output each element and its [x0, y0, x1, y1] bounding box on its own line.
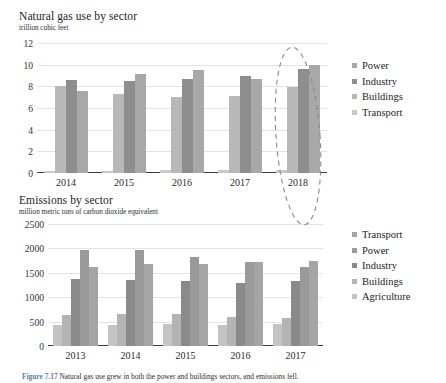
bar-transport — [102, 171, 113, 173]
figure-page: Natural gas use by sector trillion cubic… — [0, 0, 446, 383]
legend-swatch-icon — [352, 279, 357, 284]
bar-transport — [144, 264, 153, 346]
legend-swatch-icon — [352, 248, 357, 253]
x-axis-tick-label: 2017 — [211, 177, 269, 188]
bar-group: 2015 — [158, 224, 213, 346]
legend-item-industry: Industry — [352, 258, 410, 274]
chart-legend: PowerIndustryBuildingsTransport — [352, 58, 403, 120]
bar-group: 2014 — [103, 224, 158, 346]
y-axis-tick-label: 2000 — [25, 244, 44, 253]
figure-caption-text: Natural gas use grew in both the power a… — [59, 372, 298, 381]
legend-label: Buildings — [362, 276, 403, 287]
legend-label: Power — [362, 60, 389, 71]
chart-emissions-by-sector: Emissions by sector million metric tons … — [0, 194, 446, 369]
legend-item-power: Power — [352, 243, 410, 259]
bar-group: 2017 — [268, 224, 323, 346]
legend-label: Power — [362, 245, 389, 256]
bar-power — [309, 65, 320, 173]
bar-groups: 20132014201520162017 — [48, 224, 323, 346]
legend-label: Transport — [362, 107, 402, 118]
bar-groups: 20142015201620172018 — [37, 43, 327, 173]
bar-agriculture — [53, 325, 62, 346]
chart-natural-gas-use: Natural gas use by sector trillion cubic… — [0, 10, 446, 190]
y-axis-tick-label: 0 — [39, 342, 44, 351]
bar-buildings — [172, 314, 181, 346]
y-axis-tick-label: 12 — [23, 39, 33, 48]
bar-group: 2018 — [269, 43, 327, 173]
bar-industry — [126, 280, 135, 346]
x-axis-tick-label: 2015 — [95, 177, 153, 188]
x-axis-tick-label: 2014 — [103, 350, 158, 361]
x-axis-tick-label: 2016 — [153, 177, 211, 188]
legend-swatch-icon — [352, 263, 357, 268]
legend-item-transport: Transport — [352, 105, 403, 121]
bar-group: 2015 — [95, 43, 153, 173]
bar-transport — [199, 264, 208, 346]
legend-item-buildings: Buildings — [352, 274, 410, 290]
y-axis-tick-label: 0 — [28, 169, 33, 178]
bar-power — [300, 267, 309, 346]
bars — [276, 43, 320, 173]
chart-subtitle: million metric tons of carbon dioxide eq… — [19, 208, 158, 217]
bar-buildings — [227, 317, 236, 346]
bars — [218, 43, 262, 173]
bars — [53, 224, 98, 346]
bar-agriculture — [163, 324, 172, 346]
bar-buildings — [282, 318, 291, 346]
y-axis-tick-label: 500 — [30, 317, 44, 326]
chart-subtitle: trillion cubic feet — [19, 24, 69, 33]
chart-legend: TransportPowerIndustryBuildingsAgricultu… — [352, 227, 410, 305]
bar-agriculture — [218, 325, 227, 346]
bars — [273, 224, 318, 346]
legend-item-transport: Transport — [352, 227, 410, 243]
bar-industry — [291, 281, 300, 346]
figure-caption-label: Figure 7.17 — [22, 372, 58, 381]
bar-power — [251, 79, 262, 173]
x-axis-tick-label: 2013 — [48, 350, 103, 361]
bar-power — [245, 262, 254, 346]
bar-buildings — [117, 314, 126, 346]
legend-item-buildings: Buildings — [352, 89, 403, 105]
y-axis-tick-label: 6 — [28, 104, 33, 113]
bar-industry — [182, 79, 193, 173]
legend-label: Industry — [362, 76, 397, 87]
bar-transport — [254, 262, 263, 346]
legend-swatch-icon — [352, 294, 357, 299]
bar-buildings — [229, 96, 240, 173]
bar-group: 2013 — [48, 224, 103, 346]
legend-item-power: Power — [352, 58, 403, 74]
y-axis-tick-label: 1500 — [25, 268, 44, 277]
bar-group: 2016 — [153, 43, 211, 173]
bar-buildings — [113, 94, 124, 173]
y-axis-tick-label: 4 — [28, 125, 33, 134]
bar-buildings — [55, 86, 66, 173]
bar-transport — [309, 261, 318, 346]
plot-area: 0500100015002000250020132014201520162017 — [48, 224, 323, 346]
bar-transport — [218, 170, 229, 173]
bars — [102, 43, 146, 173]
bar-industry — [236, 283, 245, 346]
y-axis-tick-label: 8 — [28, 82, 33, 91]
figure-caption: Figure 7.17 Natural gas use grew in both… — [22, 372, 432, 381]
legend-swatch-icon — [352, 63, 357, 68]
y-axis-tick-label: 2500 — [25, 220, 44, 229]
bar-buildings — [171, 97, 182, 173]
y-axis-tick-label: 10 — [23, 60, 33, 69]
x-axis-tick-label: 2015 — [158, 350, 213, 361]
bar-power — [190, 257, 199, 346]
y-axis-tick-label: 1000 — [25, 293, 44, 302]
legend-item-industry: Industry — [352, 74, 403, 90]
bar-industry — [71, 279, 80, 346]
bar-power — [80, 250, 89, 346]
y-axis-tick-label: 2 — [28, 147, 33, 156]
bar-power — [193, 70, 204, 173]
x-axis-tick-label: 2018 — [269, 177, 327, 188]
bars — [44, 43, 88, 173]
bar-buildings — [287, 87, 298, 173]
legend-swatch-icon — [352, 110, 357, 115]
bar-power — [77, 91, 88, 173]
legend-label: Transport — [362, 229, 402, 240]
bar-power — [135, 74, 146, 173]
bar-group: 2016 — [213, 224, 268, 346]
bar-transport — [44, 171, 55, 173]
